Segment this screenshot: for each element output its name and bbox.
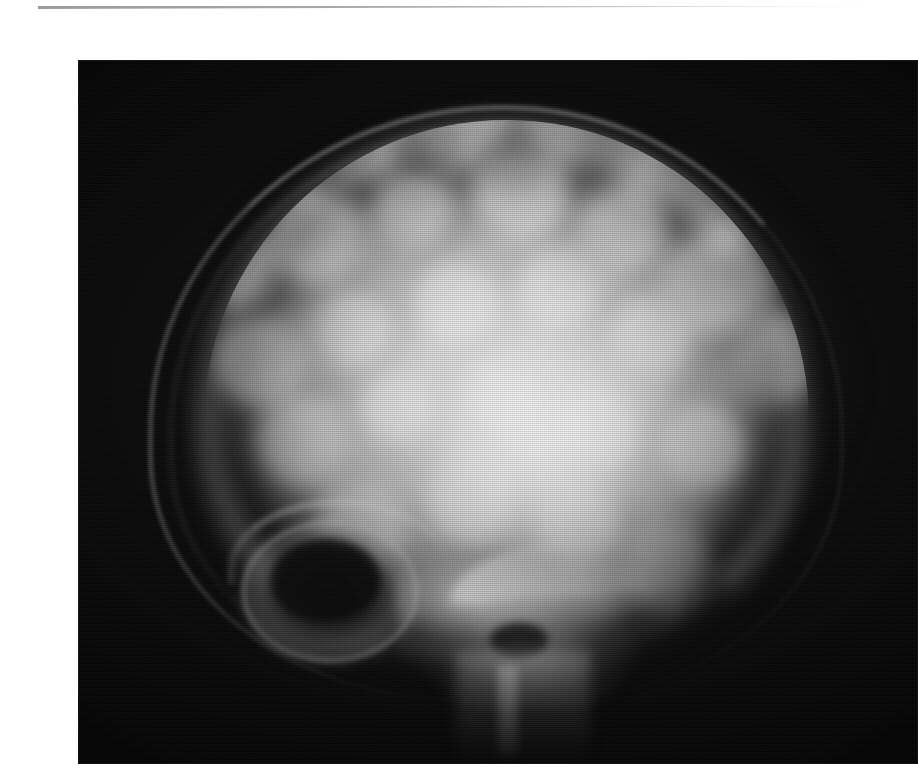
- rule-line: [38, 6, 900, 9]
- dense-sclerotic-centre: [397, 299, 683, 567]
- lateral-skull-radiograph[interactable]: [78, 60, 918, 764]
- top-horizontal-rule: [38, 6, 900, 9]
- figure-caption: [38, 756, 878, 776]
- nasal-spine: [498, 665, 518, 757]
- midface-shadow: [456, 651, 590, 764]
- orbit-lucency: [271, 539, 380, 623]
